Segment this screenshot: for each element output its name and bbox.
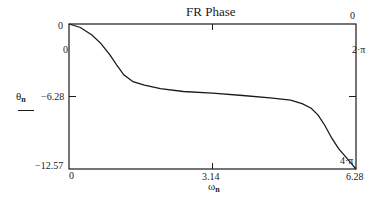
- x-tick-right: 6.28: [346, 172, 364, 182]
- y-axis-label: θn: [16, 91, 34, 111]
- y-tick-mid: −6.28: [41, 92, 64, 102]
- plot-frame: [69, 24, 356, 169]
- right-tick-bottom: 4·π: [340, 156, 353, 166]
- right-tick-top: 0: [350, 11, 355, 21]
- x-axis-label: ωn: [208, 181, 220, 195]
- x-axis-subscript: n: [215, 185, 219, 194]
- y-axis-subscript: n: [21, 95, 25, 104]
- y-tick-top-outer: 0: [58, 21, 63, 31]
- right-tick-mid: 2·π: [352, 45, 365, 55]
- y-axis-underline: [18, 110, 34, 111]
- y-tick-top-inner: 0: [63, 45, 68, 55]
- x-tick-left: 0: [69, 171, 74, 181]
- phase-curve: [69, 24, 356, 169]
- y-tick-bottom: −12.57: [35, 161, 63, 171]
